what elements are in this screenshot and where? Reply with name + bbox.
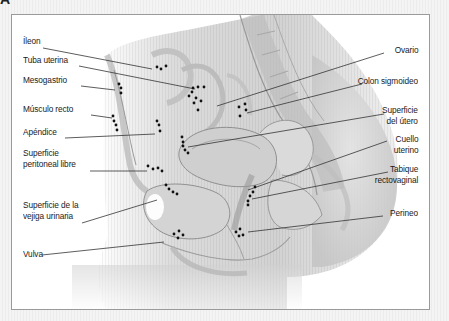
label-text: Superficie <box>382 105 418 115</box>
label-text: Superficie de la <box>23 200 79 210</box>
label-ileon: Íleon <box>23 36 40 47</box>
label-musculo-recto: Músculo recto <box>23 104 73 115</box>
label-text: Apéndice <box>23 127 57 137</box>
label-perineo: Perineo <box>390 208 418 219</box>
label-mesogastrio: Mesogastrio <box>23 75 67 86</box>
label-text: uterino <box>393 145 418 155</box>
label-text: Músculo recto <box>23 104 73 114</box>
label-cuello-uterino: Cuellouterino <box>393 134 418 156</box>
label-tuba-uterina: Tuba uterina <box>23 55 68 66</box>
label-text: Perineo <box>390 208 418 218</box>
label-text: Colon sigmoideo <box>358 76 418 86</box>
label-text: Ovario <box>394 45 418 55</box>
label-vulva: Vulva <box>23 249 43 260</box>
label-text: vejiga urinaria <box>23 211 73 221</box>
label-text: Mesogastrio <box>23 75 67 85</box>
label-text: Íleon <box>23 36 40 46</box>
label-superficie-vejiga-urinaria: Superficie de lavejiga urinaria <box>23 200 79 222</box>
label-tabique-rectovaginal: Tabiquerectovaginal <box>374 164 418 186</box>
label-text: Cuello <box>395 134 418 144</box>
label-text: del útero <box>387 116 418 126</box>
label-ovario: Ovario <box>394 45 418 56</box>
label-text: Tuba uterina <box>23 55 68 65</box>
label-text: Vulva <box>23 249 43 259</box>
diagram-panel: Íleon Tuba uterina Mesogastrio Músculo r… <box>11 14 430 310</box>
label-text: Superficie <box>23 148 59 158</box>
label-text: Tabique <box>390 164 418 174</box>
label-text: rectovaginal <box>374 175 418 185</box>
label-superficie-del-utero: Superficiedel útero <box>382 105 418 127</box>
panel-letter: A <box>0 0 10 7</box>
label-apendice: Apéndice <box>23 127 57 138</box>
label-superficie-peritoneal-libre: Superficieperitoneal libre <box>23 148 76 170</box>
label-text: peritoneal libre <box>23 159 76 169</box>
label-colon-sigmoideo: Colon sigmoideo <box>358 76 418 87</box>
